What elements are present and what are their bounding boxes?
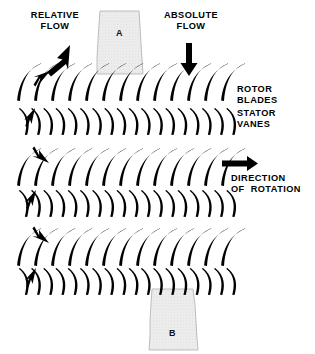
relative-flow-label: RELATIVE FLOW <box>14 10 96 32</box>
absolute-flow-label: ABSOLUTE FLOW <box>150 10 232 32</box>
relative-flow-arrow <box>47 45 70 77</box>
passage-arrows <box>24 71 50 288</box>
turbine-cascade-diagram: A B <box>0 0 315 354</box>
direction-of-rotation-arrow <box>222 156 258 171</box>
absolute-flow-arrow <box>181 43 198 76</box>
stator-vanes-label: STATOR VANES <box>237 108 276 130</box>
direction-of-rotation-label: DIRECTION OF ROTATION <box>231 173 301 195</box>
rotor-blades-label: ROTOR BLADES <box>237 84 277 106</box>
